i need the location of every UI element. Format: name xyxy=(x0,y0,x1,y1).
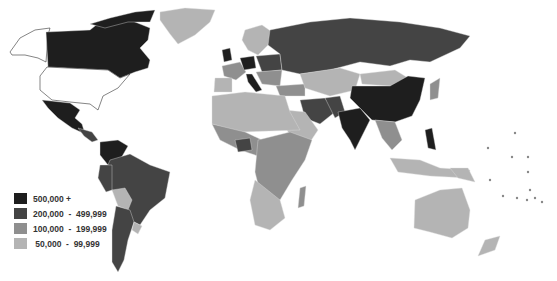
region-madagascar xyxy=(298,186,306,208)
region-india xyxy=(338,108,370,150)
region-scandinavia xyxy=(242,25,272,55)
legend-item-tier4: 50,000 - 99,999 xyxy=(14,237,107,250)
region-australia xyxy=(414,188,470,238)
region-central-america xyxy=(78,128,98,142)
legend-swatch xyxy=(14,208,27,219)
region-korea-japan xyxy=(430,78,440,100)
region-greenland xyxy=(160,8,215,44)
region-argentina-chile xyxy=(112,206,134,272)
legend-item-tier1: 500,000 + xyxy=(14,192,107,205)
region-eastern-europe xyxy=(256,54,282,72)
region-north-africa xyxy=(212,92,300,132)
region-new-zealand xyxy=(478,236,500,256)
legend-label: 100,000 - 199,999 xyxy=(33,224,107,234)
region-southeast-asia xyxy=(375,120,402,150)
region-balkans xyxy=(256,70,282,86)
region-peru xyxy=(98,165,112,192)
region-nigeria xyxy=(235,138,252,152)
region-russia xyxy=(268,18,470,74)
region-iberia xyxy=(214,78,232,92)
region-turkey xyxy=(276,84,305,96)
region-uk xyxy=(222,48,232,62)
legend-item-tier3: 100,000 - 199,999 xyxy=(14,222,107,235)
legend: 500,000 + 200,000 - 499,999 100,000 - 19… xyxy=(14,192,107,252)
legend-label: 500,000 + xyxy=(33,194,71,204)
legend-item-tier2: 200,000 - 499,999 xyxy=(14,207,107,220)
region-alaska xyxy=(10,28,50,62)
legend-swatch xyxy=(14,193,27,204)
legend-swatch xyxy=(14,238,27,249)
legend-label: 50,000 - 99,999 xyxy=(33,239,100,249)
legend-swatch xyxy=(14,223,27,234)
pacific-islands xyxy=(487,132,543,203)
legend-label: 200,000 - 499,999 xyxy=(33,209,107,219)
region-philippines xyxy=(425,128,436,150)
